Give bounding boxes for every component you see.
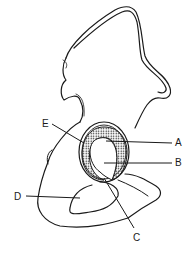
leader-line-e: [52, 124, 84, 143]
leader-line-d: [26, 196, 80, 198]
ilium-inner-rim: [74, 11, 166, 93]
ilium-outline: [66, 7, 171, 128]
hip-bone-drawing: [0, 0, 193, 260]
label-e: E: [42, 119, 49, 129]
label-d: D: [14, 192, 21, 202]
label-c: C: [133, 233, 140, 243]
hip-bone-diagram: A B C D E: [0, 0, 193, 260]
label-a: A: [175, 138, 182, 148]
label-b: B: [175, 158, 182, 168]
anterior-border: [61, 58, 83, 122]
